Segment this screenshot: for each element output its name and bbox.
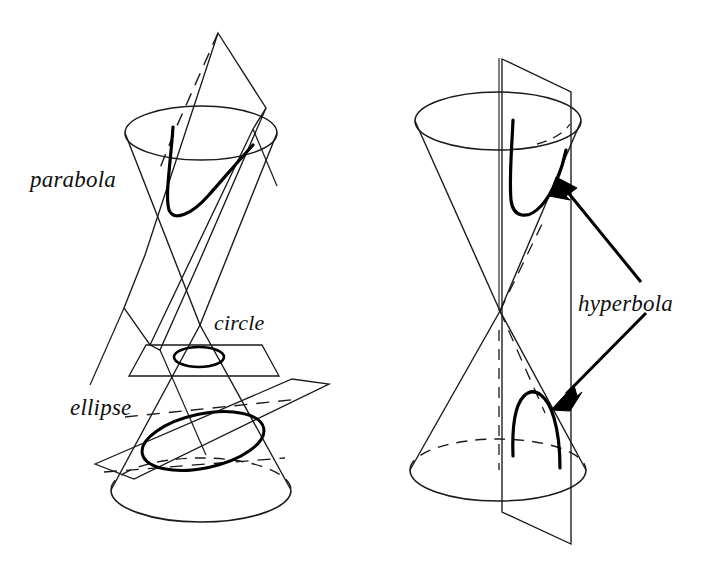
left-lower-cone-base-front: [111, 490, 291, 522]
parabola-plane-tail-left: [90, 308, 124, 385]
hyperbola-arrow-lower-shaft: [566, 313, 646, 394]
hyperbola-upper-rim-arc-dashed: [537, 124, 570, 144]
parabola-curve-group: [168, 127, 253, 216]
parabola-curve: [168, 127, 253, 216]
ellipse-cutting-plane: [95, 379, 329, 479]
circle-curve: [174, 347, 224, 367]
circle-cutting-plane: [129, 345, 279, 376]
conic-sections-figure: parabola circle ellipse hyperbola: [0, 0, 728, 577]
hyperbola-arrow-upper-shaft: [566, 190, 641, 282]
label-hyperbola: hyperbola: [578, 291, 673, 316]
hyperbola-upper-branch-group: [510, 120, 570, 215]
hyperbola-upper-branch: [510, 120, 566, 215]
hyperbola-arrow-lower-head: [551, 385, 582, 411]
hyperbola-lower-branch: [513, 392, 560, 468]
left-lower-cone: [111, 325, 291, 522]
right-cone-hidden-generators: [500, 222, 545, 413]
circle-curve-group: [174, 347, 224, 367]
right-upper-cone-rim-ellipse: [415, 92, 581, 150]
hyperbola-lower-branch-group: [513, 392, 560, 468]
label-ellipse: ellipse: [70, 395, 131, 420]
right-lower-cone-generator-left: [410, 311, 500, 470]
parabola-plane-outline: [124, 33, 266, 345]
left-double-cone-group: [90, 33, 329, 522]
ellipse-plane-hidden-edge-dashed: [125, 399, 300, 417]
parabola-plane-hidden-edge-dashed: [160, 33, 218, 168]
conic-sections-canvas: parabola circle ellipse hyperbola: [0, 0, 728, 577]
parabola-cutting-plane: [90, 33, 277, 455]
right-lower-cone-base-front: [410, 470, 586, 501]
left-lower-cone-base-back-dashed: [111, 458, 291, 490]
circle-plane-outline: [129, 345, 279, 376]
ellipse-plane-outline: [95, 379, 329, 479]
label-parabola: parabola: [28, 167, 116, 192]
label-circle: circle: [214, 310, 264, 335]
parabola-plane-tail-far-right: [253, 129, 277, 186]
left-upper-cone: [125, 106, 277, 325]
